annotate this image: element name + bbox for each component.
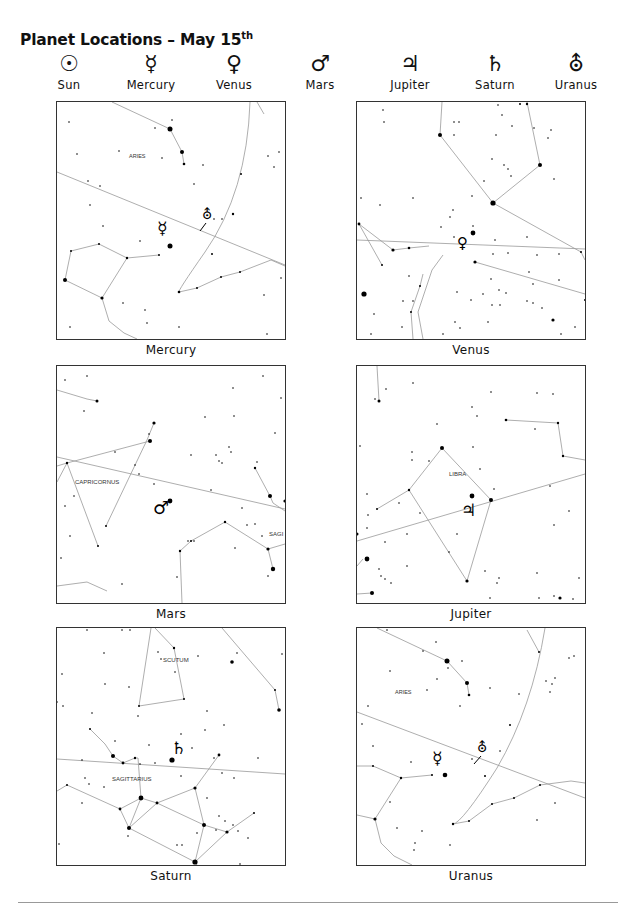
uranus-icon: ⛢ bbox=[536, 52, 616, 76]
pointer-arrow bbox=[200, 223, 206, 231]
panel-caption: Venus bbox=[356, 343, 586, 357]
footer-divider bbox=[18, 902, 618, 903]
planet-legend: ☉Sun ☿Mercury ♀Venus ♂Mars ♃Jupiter ♄Sat… bbox=[0, 52, 630, 92]
star-map: ♀ bbox=[357, 102, 585, 339]
legend-jupiter: ♃Jupiter bbox=[370, 52, 450, 92]
constellation-label-sagittarius: SAGI bbox=[269, 531, 284, 537]
star-map: ARIES ☿ ⛢ bbox=[357, 628, 585, 865]
legend-mars: ♂Mars bbox=[280, 52, 360, 92]
legend-label: Uranus bbox=[536, 78, 616, 92]
star-map: LIBRA ♃ bbox=[357, 366, 585, 603]
constellation-label-sagittarius: SAGITTARIUS bbox=[112, 776, 152, 782]
venus-icon: ♀ bbox=[457, 234, 468, 252]
venus-icon: ♀ bbox=[194, 52, 274, 76]
page-title: Planet Locations – May 15th bbox=[20, 30, 253, 49]
mercury-icon: ☿ bbox=[432, 748, 442, 768]
title-superscript: th bbox=[241, 30, 253, 41]
legend-venus: ♀Venus bbox=[194, 52, 274, 92]
legend-mercury: ☿Mercury bbox=[111, 52, 191, 92]
panel-caption: Mercury bbox=[56, 343, 286, 357]
star-map: CAPRICORNUS SAGI ♂ bbox=[57, 366, 285, 603]
star-chart-mars: CAPRICORNUS SAGI ♂ bbox=[56, 365, 286, 604]
legend-uranus: ⛢Uranus bbox=[536, 52, 616, 92]
legend-saturn: ♄Saturn bbox=[455, 52, 535, 92]
constellation-label-scutum: SCUTUM bbox=[163, 657, 189, 663]
jupiter-icon: ♃ bbox=[461, 500, 476, 520]
legend-label: Mercury bbox=[111, 78, 191, 92]
saturn-icon: ♄ bbox=[455, 52, 535, 76]
star-chart-mercury: ARIES ☿ ⛢ bbox=[56, 101, 286, 340]
legend-label: Mars bbox=[280, 78, 360, 92]
sun-icon: ☉ bbox=[29, 52, 109, 76]
star-chart-saturn: SCUTUM SAGITTARIUS ♄ bbox=[56, 627, 286, 866]
star-map: ARIES ☿ ⛢ bbox=[57, 102, 285, 339]
star-chart-jupiter: LIBRA ♃ bbox=[356, 365, 586, 604]
legend-label: Venus bbox=[194, 78, 274, 92]
legend-sun: ☉Sun bbox=[29, 52, 109, 92]
mercury-icon: ☿ bbox=[157, 218, 167, 238]
uranus-icon: ⛢ bbox=[202, 206, 212, 222]
constellation-label-capricornus: CAPRICORNUS bbox=[75, 479, 119, 485]
saturn-icon: ♄ bbox=[171, 738, 186, 758]
uranus-icon: ⛢ bbox=[477, 739, 487, 755]
mercury-icon: ☿ bbox=[111, 52, 191, 76]
legend-label: Sun bbox=[29, 78, 109, 92]
constellation-label-aries: ARIES bbox=[395, 689, 412, 695]
legend-label: Jupiter bbox=[370, 78, 450, 92]
constellation-label-aries: ARIES bbox=[129, 153, 146, 159]
star-chart-uranus: ARIES ☿ ⛢ bbox=[356, 627, 586, 866]
title-text: Planet Locations – May 15 bbox=[20, 31, 241, 49]
jupiter-icon: ♃ bbox=[370, 52, 450, 76]
panel-caption: Jupiter bbox=[356, 607, 586, 621]
mars-icon: ♂ bbox=[153, 497, 169, 518]
mars-icon: ♂ bbox=[280, 52, 360, 76]
star-chart-venus: ♀ bbox=[356, 101, 586, 340]
panel-caption: Mars bbox=[56, 607, 286, 621]
panel-caption: Uranus bbox=[356, 869, 586, 883]
panel-caption: Saturn bbox=[56, 869, 286, 883]
legend-label: Saturn bbox=[455, 78, 535, 92]
star-map: SCUTUM SAGITTARIUS ♄ bbox=[57, 628, 285, 865]
constellation-label-libra: LIBRA bbox=[449, 471, 466, 477]
